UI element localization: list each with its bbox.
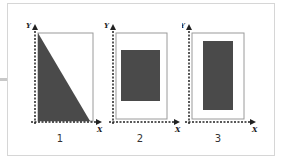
panel-3-y-arrow-icon (186, 24, 192, 30)
panel-3-rectangle (203, 41, 233, 110)
panel-2-y-label: Y (104, 22, 110, 30)
panel-1-x-label: X (96, 125, 103, 134)
panel-2-y-arrow-icon (110, 24, 116, 30)
panel-2-x-label: X (174, 125, 181, 134)
panel-1-caption: 1 (50, 133, 70, 144)
panel-1-diagram: Y X (26, 22, 106, 134)
panel-3-y-label: Y (182, 22, 186, 30)
panel-3-caption: 3 (208, 133, 228, 144)
panel-3-x-label: X (251, 125, 258, 134)
panel-1-y-arrow-icon (32, 24, 38, 30)
panel-3-diagram: Y X (182, 22, 262, 134)
panel-2-rectangle (121, 50, 160, 101)
panel-2-caption: 2 (130, 133, 150, 144)
panel-1-y-label: Y (26, 22, 32, 30)
panel-1-triangle (38, 33, 90, 121)
panel-2-diagram: Y X (104, 22, 184, 134)
